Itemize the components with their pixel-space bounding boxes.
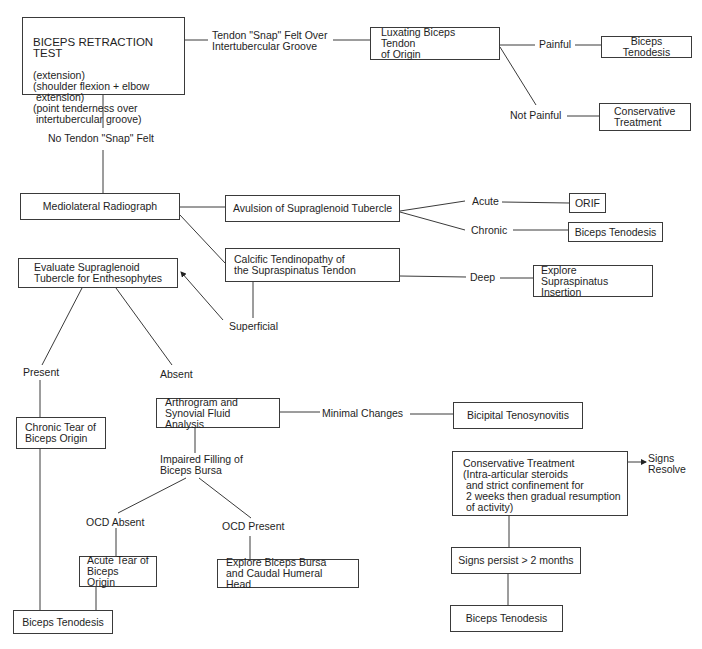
connector	[118, 478, 186, 513]
connector	[502, 202, 569, 203]
acute-label: Acute	[472, 196, 499, 207]
orif-node: ORIF	[569, 193, 606, 213]
signs-resolve-label: Signs Resolve	[648, 453, 686, 475]
node-details: (extension) (shoulder flexion + elbow ex…	[33, 70, 174, 125]
signs-persist-node: Signs persist > 2 months	[451, 547, 581, 574]
connector	[400, 201, 465, 211]
connector	[199, 478, 251, 518]
conservative-treatment-steroids-node: Conservative Treatment (Intra-articular …	[452, 451, 628, 516]
connector	[500, 47, 536, 105]
luxating-biceps-tendon-node: Luxating Biceps Tendon of Origin	[370, 27, 500, 60]
biceps-retraction-test-node: BICEPS RETRACTION TEST (extension) (shou…	[22, 17, 185, 95]
ocd-present-label: OCD Present	[222, 521, 284, 532]
snap-felt-label: Tendon "Snap" Felt Over Intertubercular …	[212, 30, 327, 52]
arthrogram-synovial-fluid-node: Arthrogram and Synovial Fluid Analysis	[156, 398, 280, 428]
minimal-changes-label: Minimal Changes	[322, 408, 403, 419]
node-title: BICEPS RETRACTION TEST	[33, 37, 174, 59]
ocd-absent-label: OCD Absent	[86, 517, 144, 528]
absent-label: Absent	[160, 369, 193, 380]
connector-arrow	[181, 272, 223, 320]
conservative-treatment-node: Conservative Treatment	[599, 103, 691, 131]
acute-tear-biceps-origin-node: Acute Tear of Biceps Origin	[79, 556, 157, 587]
impaired-filling-label: Impaired Filling of Biceps Bursa	[160, 454, 243, 476]
connector	[180, 215, 225, 263]
explore-supraspinatus-insertion-node: Explore Supraspinatus Insertion	[533, 265, 653, 297]
chronic-tear-biceps-origin-node: Chronic Tear of Biceps Origin	[16, 417, 106, 449]
mediolateral-radiograph-node: Mediolateral Radiograph	[20, 193, 180, 220]
calcific-tendinopathy-node: Calcific Tendinopathy of the Supraspinat…	[225, 248, 400, 282]
biceps-tenodesis-node: Biceps Tenodesis	[13, 610, 113, 634]
connector	[400, 276, 466, 277]
explore-biceps-bursa-node: Explore Biceps Bursa and Caudal Humeral …	[217, 559, 359, 588]
connector	[400, 212, 465, 230]
bicipital-tenosynovitis-node: Bicipital Tenosynovitis	[453, 402, 583, 429]
painful-label: Painful	[539, 39, 571, 50]
biceps-tenodesis-node: Biceps Tenodesis	[601, 36, 692, 58]
chronic-label: Chronic	[471, 225, 507, 236]
biceps-tenodesis-node: Biceps Tenodesis	[568, 222, 663, 242]
biceps-tenodesis-node: Biceps Tenodesis	[450, 605, 563, 632]
connector	[42, 288, 82, 365]
connector	[116, 288, 172, 365]
avulsion-supraglenoid-tubercle-node: Avulsion of Supraglenoid Tubercle	[225, 195, 400, 222]
evaluate-supraglenoid-tubercle-node: Evaluate Supraglenoid Tubercle for Enthe…	[18, 258, 178, 288]
not-painful-label: Not Painful	[510, 110, 561, 121]
no-snap-felt-label: No Tendon "Snap" Felt	[48, 133, 154, 144]
superficial-label: Superficial	[229, 321, 278, 332]
present-label: Present	[23, 367, 59, 378]
deep-label: Deep	[470, 272, 495, 283]
